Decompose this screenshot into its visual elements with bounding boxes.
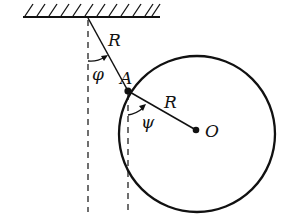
point-a-dot <box>124 87 131 94</box>
label-rod-length: R <box>107 30 121 50</box>
label-angle-phi: φ <box>92 64 104 84</box>
label-point-a: A <box>118 68 132 88</box>
label-center-o: O <box>205 121 219 141</box>
pendulum-disk-diagram: R φ A R ψ O <box>0 0 294 222</box>
disk-radius <box>128 91 196 130</box>
label-disk-radius: R <box>163 92 177 112</box>
center-o-dot <box>193 127 200 134</box>
label-angle-psi: ψ <box>141 112 155 132</box>
ceiling-support <box>23 4 160 17</box>
disk-circle <box>119 56 275 212</box>
